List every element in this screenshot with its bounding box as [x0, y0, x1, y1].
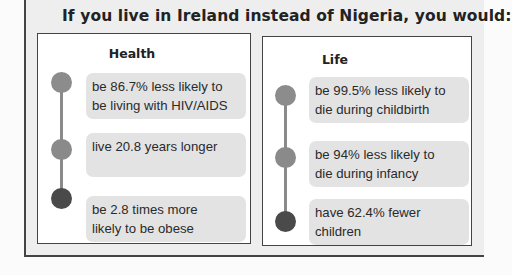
- fact-card: have 62.4% fewer children: [309, 199, 469, 245]
- timeline-dot-icon: [51, 188, 72, 209]
- timeline-dot-icon: [275, 211, 296, 232]
- fact-text: be 2.8 times more: [92, 200, 240, 219]
- fact-card: be 99.5% less likely to die during child…: [309, 77, 469, 123]
- fact-text: die during childbirth: [315, 100, 463, 119]
- fact-text: be 94% less likely to: [315, 145, 463, 164]
- life-heading: Life: [231, 52, 439, 67]
- fact-text: have 62.4% fewer: [315, 203, 463, 222]
- fact-card: be 86.7% less likely to be living with H…: [86, 73, 246, 119]
- fact-text: live 20.8 years longer: [92, 137, 240, 156]
- fact-text: die during infancy: [315, 164, 463, 183]
- fact-text: children: [315, 222, 463, 241]
- health-panel: Health be 86.7% less likely to be living…: [37, 33, 251, 244]
- timeline-connector: [60, 74, 63, 201]
- fact-card: live 20.8 years longer: [86, 133, 246, 177]
- fact-text: be living with HIV/AIDS: [92, 96, 240, 115]
- timeline-dot-icon: [51, 139, 72, 160]
- fact-text: be 86.7% less likely to: [92, 77, 240, 96]
- life-panel: Life be 99.5% less likely to die during …: [262, 36, 472, 246]
- fact-text: likely to be obese: [92, 219, 240, 238]
- infographic-title: If you live in Ireland instead of Nigeri…: [62, 7, 512, 25]
- fact-text: be 99.5% less likely to: [315, 81, 463, 100]
- fact-card: be 94% less likely to die during infancy: [309, 141, 469, 187]
- timeline-dot-icon: [51, 72, 72, 93]
- timeline-dot-icon: [275, 85, 296, 106]
- health-heading: Health: [26, 46, 238, 61]
- timeline-dot-icon: [275, 147, 296, 168]
- fact-card: be 2.8 times more likely to be obese: [86, 196, 246, 242]
